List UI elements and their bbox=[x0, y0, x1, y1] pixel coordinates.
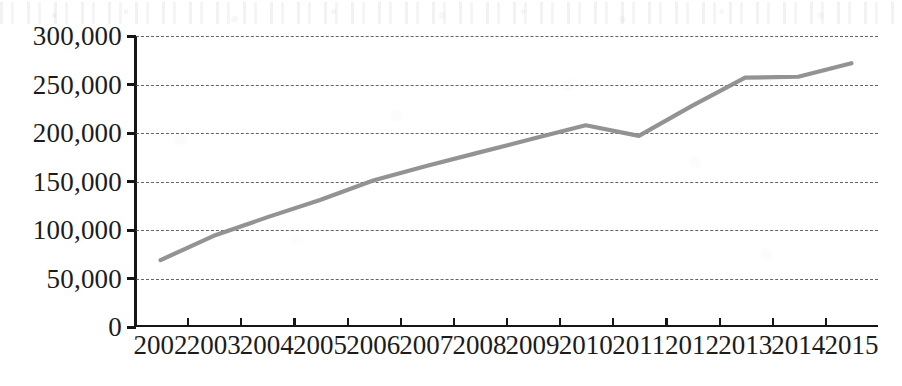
y-axis-label-300000: 300,000 bbox=[33, 23, 122, 50]
plot-area: 050,000100,000150,000200,000250,000300,0… bbox=[134, 36, 878, 327]
y-axis-label-200000: 200,000 bbox=[33, 120, 122, 147]
x-axis-label-2010: 2010 bbox=[559, 332, 613, 359]
x-axis-label-2006: 2006 bbox=[346, 332, 400, 359]
series-line-path bbox=[161, 63, 852, 260]
x-axis-label-2007: 2007 bbox=[399, 332, 453, 359]
x-axis-label-2015: 2015 bbox=[824, 332, 878, 359]
x-axis-label-2014: 2014 bbox=[771, 332, 825, 359]
y-axis-label-250000: 250,000 bbox=[33, 71, 122, 98]
y-axis-label-0: 0 bbox=[108, 314, 122, 341]
x-axis-label-2005: 2005 bbox=[293, 332, 347, 359]
y-axis-label-100000: 100,000 bbox=[33, 217, 122, 244]
line-chart: 050,000100,000150,000200,000250,000300,0… bbox=[0, 0, 902, 386]
x-axis-label-2013: 2013 bbox=[718, 332, 772, 359]
x-axis-label-2012: 2012 bbox=[665, 332, 719, 359]
x-axis-label-2004: 2004 bbox=[240, 332, 294, 359]
series-svg bbox=[134, 36, 878, 327]
y-axis-label-150000: 150,000 bbox=[33, 168, 122, 195]
y-axis-label-50000: 50,000 bbox=[47, 265, 122, 292]
x-axis-label-2002: 2002 bbox=[134, 332, 188, 359]
x-axis-label-2008: 2008 bbox=[452, 332, 506, 359]
x-axis-label-2003: 2003 bbox=[187, 332, 241, 359]
x-axis-label-2009: 2009 bbox=[506, 332, 560, 359]
x-axis-label-2011: 2011 bbox=[612, 332, 665, 359]
